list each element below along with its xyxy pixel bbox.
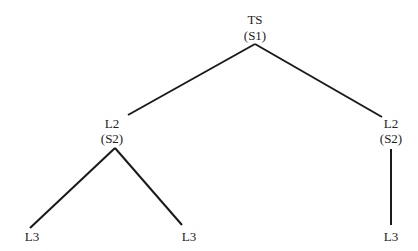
edge-left-l2-l3b	[115, 148, 182, 225]
node-right-l2-label: L2	[371, 117, 411, 131]
node-right-l3: L3	[371, 230, 411, 244]
tree-edges	[0, 0, 418, 251]
node-root-label: TS	[235, 13, 275, 27]
edge-left-l2-l3a	[30, 148, 115, 228]
node-left-l3-a: L3	[12, 230, 52, 244]
node-right-l2-sublabel: (S2)	[371, 132, 411, 146]
edge-root-right-l2	[255, 44, 382, 117]
node-left-l2-label: L2	[92, 117, 132, 131]
node-root-sublabel: (S1)	[235, 29, 275, 43]
node-left-l3-b: L3	[169, 230, 209, 244]
node-left-l2-sublabel: (S2)	[92, 132, 132, 146]
edge-root-left-l2	[128, 44, 255, 115]
